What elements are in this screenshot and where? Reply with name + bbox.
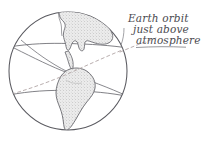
annotation-line-3: atmosphere	[136, 34, 201, 46]
earth-orbit-sketch-figure: Earth orbit just above atmosphere	[0, 0, 204, 149]
sketch-canvas: Earth orbit just above atmosphere	[0, 0, 204, 149]
